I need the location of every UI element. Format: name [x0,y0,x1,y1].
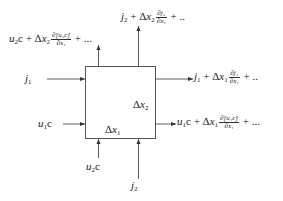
fraction: ∂[u₂c]∂x₁ [51,32,71,47]
label-j2-in: j2 [131,180,138,193]
fraction: ∂[u₁c]∂x₁ [219,115,239,130]
label-dx1: Δx1 [105,124,120,137]
label-j1-out: j1 + Δx1∂j₁∂x₁ + .. [194,70,258,85]
label-j1-in: j1 [25,73,32,86]
label-u1c-in: u1c [38,118,52,131]
label-j2-out: j2 + Δx2∂j₂∂x₁ + .. [121,10,185,25]
fraction: ∂j₁∂x₁ [229,70,240,85]
label-u1c-out: u1c + Δx1∂[u₁c]∂x₁ + ... [177,115,260,130]
label-u2c-out: u2c + Δx2∂[u₂c]∂x₁ + ... [9,32,92,47]
label-dx2: Δx2 [133,99,148,112]
fraction: ∂j₂∂x₁ [156,10,167,25]
label-u2c-in: u2c [86,161,100,174]
